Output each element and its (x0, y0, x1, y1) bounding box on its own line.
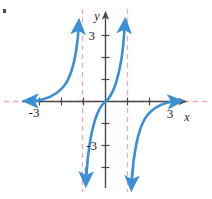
x-axis-label: x (183, 110, 190, 124)
xtick-label-pos3: 3 (167, 106, 174, 121)
y-axis-label: y (93, 9, 100, 23)
coordinate-plane-svg: -3 3 3 -3 x y (0, 0, 212, 199)
ytick-label-neg3: -3 (86, 138, 97, 153)
ytick-label-pos3: 3 (89, 28, 96, 43)
curve-branch-right-arrow-down (132, 172, 133, 184)
curve-branch-left (32, 26, 79, 101)
xtick-label-neg3: -3 (29, 105, 40, 120)
graph-figure: -3 3 3 -3 x y (0, 0, 212, 199)
corner-dot-mark (3, 9, 6, 13)
